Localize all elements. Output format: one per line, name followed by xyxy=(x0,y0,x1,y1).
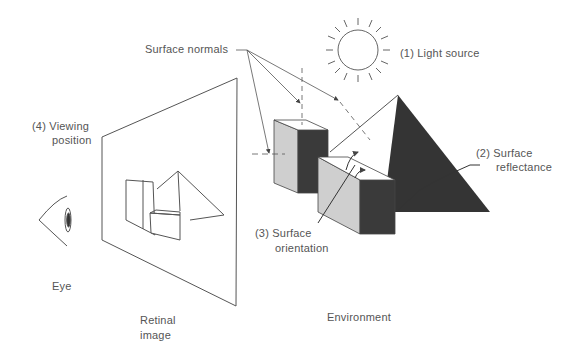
viewing-position-label-line1: (4) Viewing xyxy=(32,119,89,133)
retinal-image-label-line2: image xyxy=(140,328,171,342)
surface-reflectance-label-line2: reflectance xyxy=(496,160,552,174)
viewing-position-label-line2: position xyxy=(52,133,92,147)
surface-orientation-label-line1: (3) Surface xyxy=(255,226,312,240)
sun-icon xyxy=(326,18,390,82)
surface-reflectance-label-line1: (2) Surface xyxy=(476,146,533,160)
retinal-plane xyxy=(102,78,237,306)
eye-label: Eye xyxy=(52,279,72,293)
retinal-image-label-line1: Retinal xyxy=(140,313,176,327)
surface-orientation-label-line2: orientation xyxy=(275,241,329,255)
light-source-label: (1) Light source xyxy=(400,46,480,60)
front-cube xyxy=(318,157,395,234)
eye-icon xyxy=(39,196,71,246)
scene-diagram xyxy=(0,0,584,358)
surface-normals-label: Surface normals xyxy=(145,42,228,56)
environment-label: Environment xyxy=(327,310,391,324)
